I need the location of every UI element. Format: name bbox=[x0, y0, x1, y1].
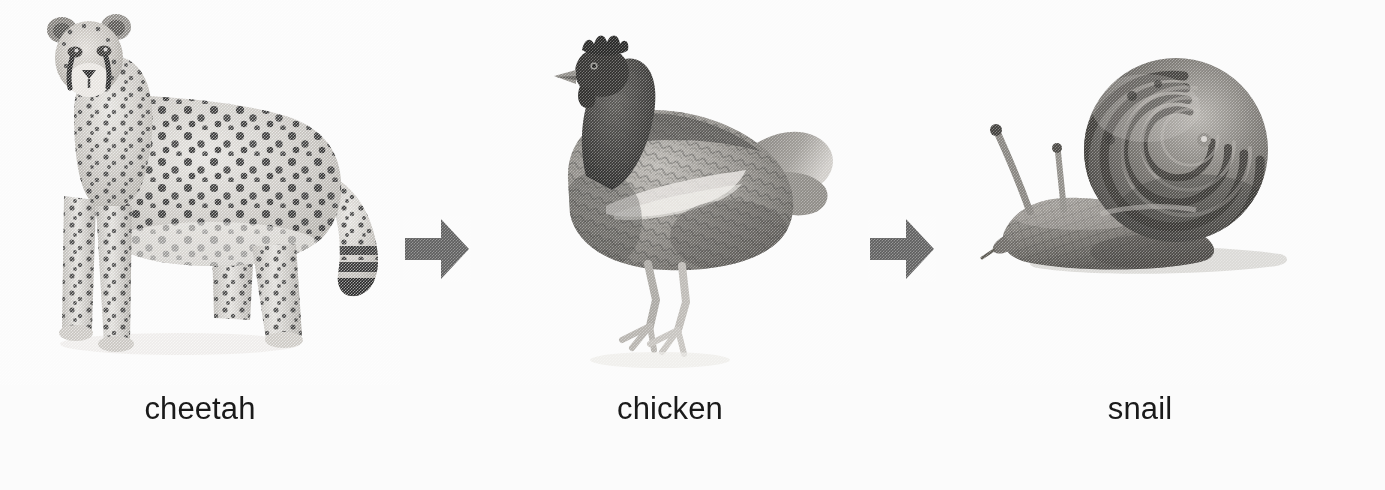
chicken-photo bbox=[490, 0, 850, 385]
sequence-item-cheetah: cheetah bbox=[0, 0, 400, 490]
snail-photo bbox=[960, 0, 1320, 385]
snail-tentacles bbox=[990, 124, 1064, 212]
item-label-chicken: chicken bbox=[490, 392, 850, 426]
arrow-right-icon bbox=[868, 216, 936, 282]
chicken-legs bbox=[622, 264, 686, 354]
animal-speed-sequence-figure: cheetah bbox=[0, 0, 1385, 490]
cheetah-hind-leg-near bbox=[245, 240, 310, 348]
cheetah-photo bbox=[0, 0, 400, 385]
sequence-item-snail: snail bbox=[960, 0, 1320, 490]
arrow-right-icon bbox=[403, 216, 471, 282]
item-label-cheetah: cheetah bbox=[0, 392, 400, 426]
item-label-snail: snail bbox=[960, 392, 1320, 426]
sequence-item-chicken: chicken bbox=[490, 0, 850, 490]
